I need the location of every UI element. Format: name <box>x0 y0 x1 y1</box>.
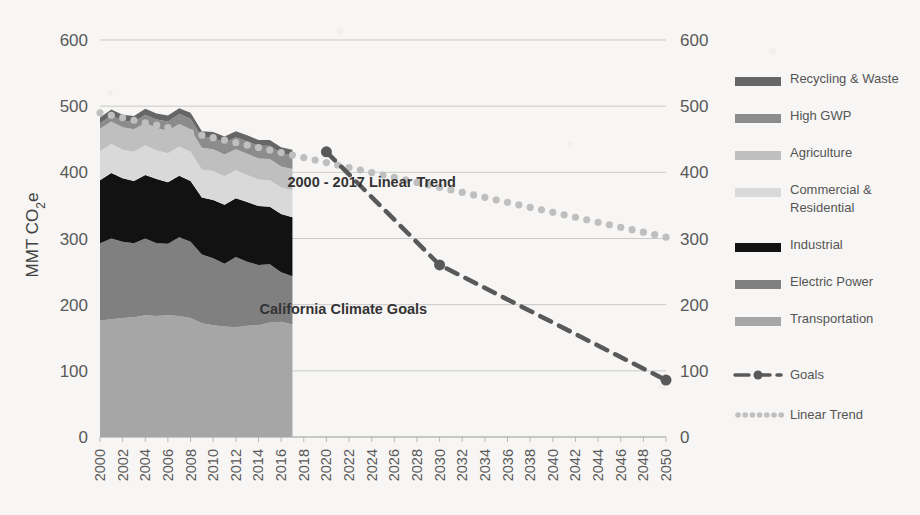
legend-label-goals: Goals <box>790 367 824 382</box>
svg-text:2038: 2038 <box>522 449 538 481</box>
emissions-area-chart: 0010010020020030030040040050050060060020… <box>0 0 920 515</box>
y-tick-label-right-500: 500 <box>680 97 708 116</box>
legend-swatch-commercial-residential <box>735 188 781 197</box>
svg-text:2044: 2044 <box>590 449 606 481</box>
svg-text:2014: 2014 <box>250 449 266 481</box>
legend-swatch-high-gwp <box>735 114 781 123</box>
x-tick-label-2016: 2016 <box>273 449 289 481</box>
legend-dot-linear-trend-2 <box>750 412 756 418</box>
goals-marker-2050 <box>661 375 672 386</box>
y-tick-label-right-300: 300 <box>680 230 708 249</box>
x-tick-label-2000: 2000 <box>92 449 108 481</box>
linear-trend-point-2009 <box>198 132 205 139</box>
x-tick-label-2036: 2036 <box>500 449 516 481</box>
linear-trend-point-2008 <box>187 129 194 136</box>
legend-dot-linear-trend-3 <box>757 412 763 418</box>
chart-plot-area: 0010010020020030030040040050050060060020… <box>0 0 920 515</box>
svg-text:2046: 2046 <box>613 449 629 481</box>
linear-trend-point-2005 <box>153 122 160 129</box>
x-tick-label-2048: 2048 <box>635 449 651 481</box>
x-tick-label-2024: 2024 <box>364 449 380 481</box>
svg-text:2042: 2042 <box>567 449 583 481</box>
linear-trend-point-2010 <box>210 134 217 141</box>
svg-text:2030: 2030 <box>432 449 448 481</box>
x-tick-label-2002: 2002 <box>115 449 131 481</box>
linear-trend-point-2039 <box>538 206 545 213</box>
legend-swatch-recycling-waste <box>735 77 781 86</box>
svg-text:2016: 2016 <box>273 449 289 481</box>
svg-text:2022: 2022 <box>341 449 357 481</box>
linear-trend-point-2004 <box>142 119 149 126</box>
linear-trend-point-2042 <box>572 214 579 221</box>
svg-text:2026: 2026 <box>386 449 402 481</box>
svg-text:2008: 2008 <box>183 449 199 481</box>
linear-trend-point-2032 <box>459 189 466 196</box>
linear-trend-point-2036 <box>504 199 511 206</box>
x-tick-label-2034: 2034 <box>477 449 493 481</box>
linear-trend-point-2019 <box>311 156 318 163</box>
svg-text:2032: 2032 <box>454 449 470 481</box>
linear-trend-point-2020 <box>323 159 330 166</box>
svg-text:2020: 2020 <box>318 449 334 481</box>
legend-label-industrial: Industrial <box>790 237 843 252</box>
goals-marker-2020 <box>321 146 332 157</box>
svg-text:2010: 2010 <box>205 449 221 481</box>
linear-trend-point-2049 <box>651 231 658 238</box>
linear-trend-point-2034 <box>481 194 488 201</box>
annotation-california-climate-goals: California Climate Goals <box>260 301 428 317</box>
area-series-transportation <box>100 315 292 437</box>
svg-text:2050: 2050 <box>658 449 674 481</box>
x-tick-label-2030: 2030 <box>432 449 448 481</box>
x-tick-label-2018: 2018 <box>296 449 312 481</box>
legend-dot-linear-trend-0 <box>735 412 741 418</box>
svg-text:2002: 2002 <box>115 449 131 481</box>
legend-label-transportation: Transportation <box>790 311 873 326</box>
x-tick-label-2014: 2014 <box>250 449 266 481</box>
legend-swatch-transportation <box>735 317 781 326</box>
y-tick-label-right-0: 0 <box>680 428 689 447</box>
linear-trend-point-2013 <box>244 142 251 149</box>
linear-trend-point-2018 <box>300 154 307 161</box>
legend-label-commercial-residential-line2: Residential <box>790 200 854 215</box>
legend-dot-linear-trend-5 <box>771 412 777 418</box>
y-tick-label-left-100: 100 <box>60 362 88 381</box>
linear-trend-point-2023 <box>357 166 364 173</box>
svg-text:2012: 2012 <box>228 449 244 481</box>
linear-trend-point-2046 <box>617 224 624 231</box>
legend-marker-goals <box>754 371 763 380</box>
y-tick-label-right-100: 100 <box>680 362 708 381</box>
linear-trend-point-2001 <box>108 112 115 119</box>
linear-trend-point-2048 <box>640 229 647 236</box>
svg-text:2004: 2004 <box>137 449 153 481</box>
svg-text:2034: 2034 <box>477 449 493 481</box>
legend-label-agriculture: Agriculture <box>790 145 852 160</box>
x-tick-label-2040: 2040 <box>545 449 561 481</box>
linear-trend-point-2011 <box>221 137 228 144</box>
y-tick-label-right-400: 400 <box>680 163 708 182</box>
linear-trend-point-2043 <box>583 216 590 223</box>
linear-trend-point-2007 <box>176 127 183 134</box>
linear-trend-point-2003 <box>130 117 137 124</box>
linear-trend-point-2044 <box>594 219 601 226</box>
x-tick-label-2010: 2010 <box>205 449 221 481</box>
linear-trend-point-2041 <box>561 211 568 218</box>
y-tick-label-left-200: 200 <box>60 296 88 315</box>
y-tick-label-left-400: 400 <box>60 163 88 182</box>
x-tick-label-2038: 2038 <box>522 449 538 481</box>
svg-text:2036: 2036 <box>500 449 516 481</box>
x-tick-label-2046: 2046 <box>613 449 629 481</box>
linear-trend-point-2038 <box>527 204 534 211</box>
y-tick-label-left-600: 600 <box>60 31 88 50</box>
legend-dot-linear-trend-1 <box>742 412 748 418</box>
legend-dot-linear-trend-6 <box>778 412 784 418</box>
x-tick-label-2028: 2028 <box>409 449 425 481</box>
annotation-linear-trend: 2000 - 2017 Linear Trend <box>287 174 455 190</box>
y-tick-label-left-300: 300 <box>60 230 88 249</box>
svg-text:2006: 2006 <box>160 449 176 481</box>
x-tick-label-2020: 2020 <box>318 449 334 481</box>
x-tick-label-2044: 2044 <box>590 449 606 481</box>
linear-trend-point-2037 <box>515 201 522 208</box>
svg-text:2000: 2000 <box>92 449 108 481</box>
linear-trend-point-2002 <box>119 114 126 121</box>
svg-text:2028: 2028 <box>409 449 425 481</box>
